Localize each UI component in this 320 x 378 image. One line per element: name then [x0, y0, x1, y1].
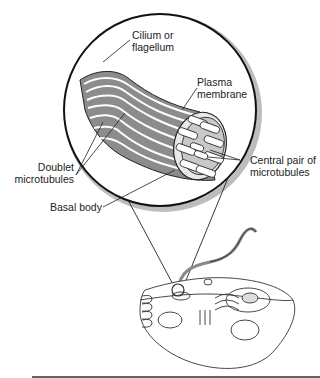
label-doublet-microtubules: Doublet microtubules	[14, 161, 74, 185]
label-cilium-line1: Cilium or	[132, 29, 174, 41]
label-membrane-line2: membrane	[197, 88, 247, 100]
label-central-line2: microtubules	[250, 166, 316, 178]
cell-illustration	[140, 229, 295, 369]
label-membrane-line1: Plasma	[197, 76, 247, 88]
diagram-canvas	[0, 0, 320, 378]
label-cilium-line2: flagellum	[132, 41, 174, 53]
label-cilium: Cilium or flagellum	[132, 29, 174, 53]
label-central-line1: Central pair of	[250, 154, 316, 166]
label-basal-body: Basal body	[50, 201, 102, 213]
label-basal-line1: Basal body	[50, 201, 102, 213]
label-doublet-line1: Doublet	[14, 161, 74, 173]
label-plasma-membrane: Plasma membrane	[197, 76, 247, 100]
label-central-pair: Central pair of microtubules	[250, 154, 316, 178]
label-doublet-line2: microtubules	[14, 173, 74, 185]
